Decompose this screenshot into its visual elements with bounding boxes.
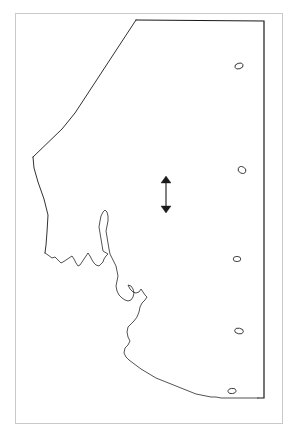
island-marker <box>228 388 237 394</box>
island-marker <box>234 62 244 70</box>
scale-arrow-head-down <box>161 206 171 213</box>
map-canvas <box>0 0 298 437</box>
map-boundary-group <box>33 20 264 398</box>
island-marker <box>233 256 241 261</box>
political-border-path <box>136 20 264 398</box>
map-figure <box>0 0 298 437</box>
scale-arrow-annotation <box>161 176 171 213</box>
island-marker <box>237 165 247 174</box>
scale-arrow-head-up <box>161 176 171 183</box>
coastline-path <box>45 210 258 398</box>
island-marker <box>234 327 244 334</box>
northwest-border-path <box>33 20 136 157</box>
islands-group <box>228 62 247 394</box>
west-border-path <box>33 157 48 253</box>
